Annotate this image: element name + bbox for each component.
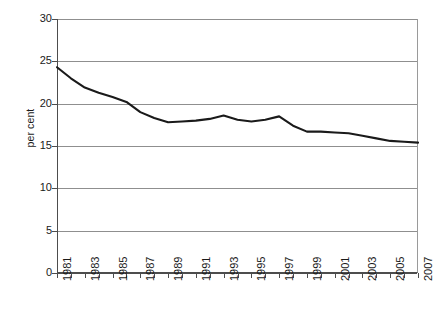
x-axis-tick-label: 1987 (145, 257, 156, 281)
y-axis-tick-label: 25 (22, 55, 52, 66)
x-axis-tick-label: 2005 (395, 257, 406, 281)
x-axis-tick-label: 1985 (118, 257, 129, 281)
chart-figure: 051015202530 per cent 198119831985198719… (0, 0, 448, 324)
gridline (58, 19, 417, 20)
gridline (58, 146, 417, 147)
x-axis-tick-label: 1981 (62, 257, 73, 281)
x-axis-tick-label: 1997 (284, 257, 295, 281)
x-axis-tick-label: 1983 (90, 257, 101, 281)
y-axis-title: per cent (24, 88, 36, 168)
plot-area (57, 19, 418, 273)
x-axis-tick-label: 2001 (340, 257, 351, 281)
x-axis-tick-label: 1989 (173, 257, 184, 281)
x-axis-tick-label: 2003 (367, 257, 378, 281)
x-axis-tick-label: 1999 (312, 257, 323, 281)
y-axis-tick-label: 10 (22, 182, 52, 193)
x-axis-tick-label: 1993 (229, 257, 240, 281)
gridline (58, 231, 417, 232)
x-axis-tick-label: 2007 (423, 257, 434, 281)
gridline (58, 188, 417, 189)
gridline (58, 104, 417, 105)
y-axis-tick-label: 5 (22, 225, 52, 236)
x-axis-tick-label: 1995 (256, 257, 267, 281)
gridline (58, 61, 417, 62)
y-axis-tick-label: 30 (22, 13, 52, 24)
x-axis-tick-label: 1991 (201, 257, 212, 281)
caption-strip (0, 316, 448, 324)
